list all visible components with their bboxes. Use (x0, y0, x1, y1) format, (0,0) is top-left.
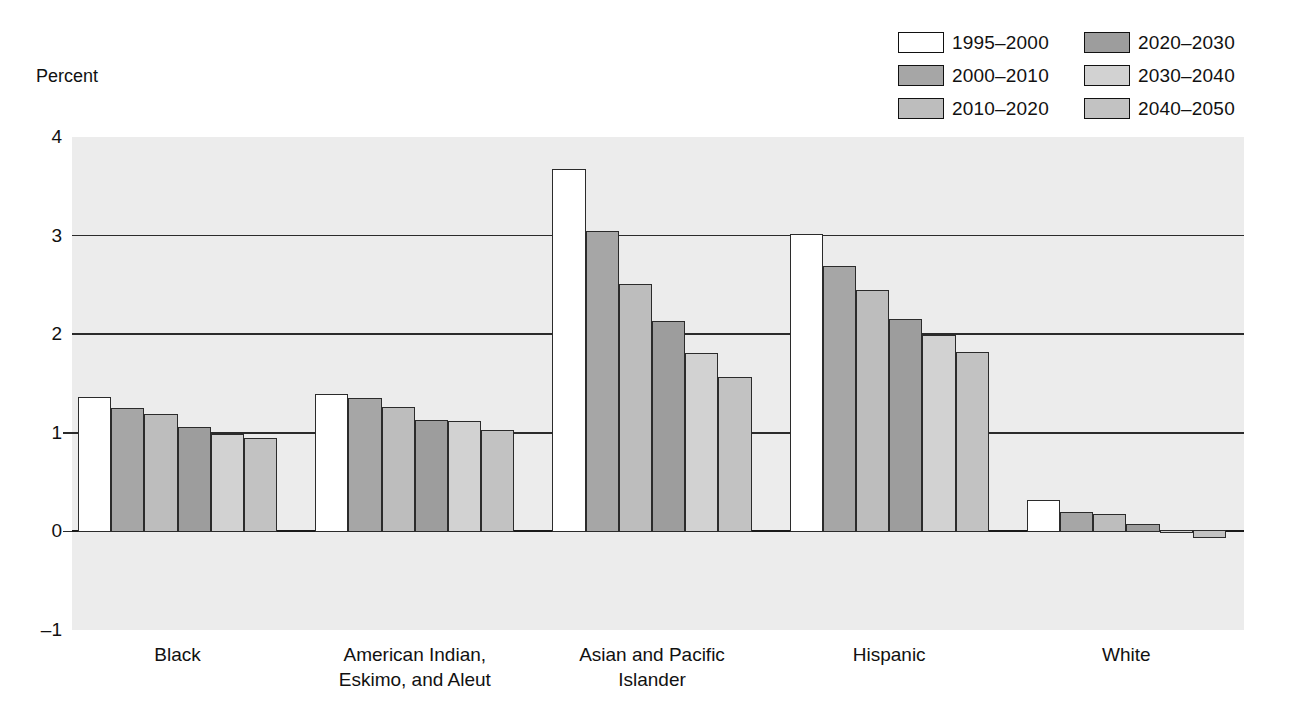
bar (586, 231, 619, 533)
bar (244, 438, 277, 533)
y-axis-tick-mark (63, 531, 72, 533)
bar (889, 319, 922, 532)
legend-item[interactable]: 2020–2030 (1084, 32, 1270, 54)
legend-swatch-icon (898, 32, 944, 53)
y-axis-tick-label: –1 (10, 619, 62, 641)
legend-item[interactable]: 1995–2000 (898, 32, 1084, 54)
legend-label: 2010–2020 (952, 98, 1049, 120)
bar (481, 430, 514, 533)
legend-item[interactable]: 2010–2020 (898, 98, 1084, 120)
bar (315, 394, 348, 532)
bar (652, 321, 685, 532)
bar (111, 408, 144, 532)
legend-item[interactable]: 2040–2050 (1084, 98, 1270, 120)
bar (144, 414, 177, 532)
legend-swatch-icon (898, 65, 944, 86)
bar (211, 434, 244, 533)
legend-item[interactable]: 2000–2010 (898, 65, 1084, 87)
legend-swatch-icon (1084, 98, 1130, 119)
y-axis-tick-mark (63, 432, 72, 434)
legend-label: 2000–2010 (952, 65, 1049, 87)
bar (856, 290, 889, 533)
legend-swatch-icon (1084, 65, 1130, 86)
y-axis-tick-label: 4 (10, 126, 62, 148)
bar (718, 377, 751, 533)
x-axis-category-label: Black (48, 642, 308, 667)
legend-label: 2030–2040 (1138, 65, 1235, 87)
bar (1126, 524, 1159, 533)
bar (178, 427, 211, 533)
bar (552, 169, 585, 533)
bar (382, 407, 415, 532)
legend-swatch-icon (1084, 32, 1130, 53)
bar (956, 352, 989, 532)
chart-legend: 1995–20002020–20302000–20102030–20402010… (898, 26, 1268, 125)
bar (1193, 530, 1226, 538)
bar (790, 234, 823, 533)
bar (78, 397, 111, 532)
x-axis-category-label: Hispanic (759, 642, 1019, 667)
legend-item[interactable]: 2030–2040 (1084, 65, 1270, 87)
y-axis-tick-label: 1 (10, 422, 62, 444)
legend-swatch-icon (898, 98, 944, 119)
x-axis-category-label: Asian and Pacific Islander (522, 642, 782, 692)
bar (448, 421, 481, 532)
bar (1160, 530, 1193, 533)
bar (1027, 500, 1060, 533)
bar (415, 420, 448, 532)
x-axis-category-label: White (996, 642, 1256, 667)
bar (922, 335, 955, 532)
y-axis-tick-label: 2 (10, 323, 62, 345)
legend-label: 2040–2050 (1138, 98, 1235, 120)
bar (685, 353, 718, 532)
y-axis-title: Percent (36, 66, 98, 87)
y-axis-tick-label: 0 (10, 520, 62, 542)
legend-label: 2020–2030 (1138, 32, 1235, 54)
bar (348, 398, 381, 532)
y-axis-tick-label: 3 (10, 225, 62, 247)
bar (619, 284, 652, 532)
legend-label: 1995–2000 (952, 32, 1049, 54)
bar (1060, 512, 1093, 533)
bar (1093, 514, 1126, 533)
gridline (72, 235, 1244, 237)
plot-area: –101234 (72, 137, 1244, 630)
bar (823, 266, 856, 532)
x-axis-category-label: American Indian, Eskimo, and Aleut (285, 642, 545, 692)
